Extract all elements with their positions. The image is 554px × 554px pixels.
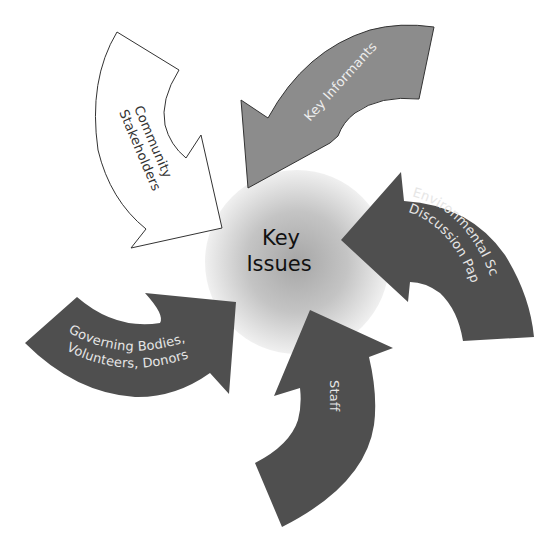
center-label-line2: Issues bbox=[246, 252, 311, 276]
center-label-line1: Key bbox=[262, 226, 300, 250]
arrow-community-stakeholders: Community Stakeholders bbox=[95, 32, 222, 248]
arrow-key-informants: Key Informants bbox=[241, 25, 434, 188]
arrow-shape-key-informants bbox=[241, 25, 434, 188]
key-issues-diagram: Key Issues Community Stakeholders Key In… bbox=[0, 0, 554, 554]
label-staff: Staff bbox=[327, 380, 342, 412]
arrow-governing-bodies: Governing Bodies, Volunteers, Donors bbox=[25, 293, 236, 397]
